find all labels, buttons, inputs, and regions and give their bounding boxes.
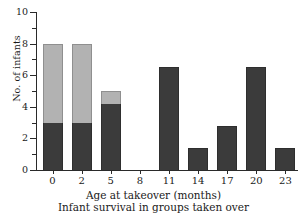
bar-segment-survived-5 bbox=[101, 104, 121, 170]
y-minor-tick-1 bbox=[32, 154, 37, 155]
y-minor-tick-5 bbox=[32, 91, 37, 92]
y-tick-label-4: 4 bbox=[8, 102, 28, 112]
bar-segment-survived-14 bbox=[188, 148, 208, 170]
bar-segment-died-2 bbox=[72, 44, 92, 123]
bar-17 bbox=[217, 126, 237, 170]
bar-11 bbox=[159, 67, 179, 170]
y-tick-label-8: 8 bbox=[8, 39, 28, 49]
plot-area: 0246810 02581114172023 bbox=[36, 12, 298, 170]
x-tick-label-20: 20 bbox=[243, 176, 269, 186]
figure-caption: Infant survival in groups taken over bbox=[0, 201, 307, 213]
x-tick-label-2: 2 bbox=[69, 176, 95, 186]
bar-segment-survived-2 bbox=[72, 123, 92, 170]
bar-segment-survived-23 bbox=[275, 148, 295, 170]
bar-segment-died-5 bbox=[101, 91, 121, 104]
bar-segment-survived-11 bbox=[159, 67, 179, 170]
y-tick-10 bbox=[30, 12, 37, 13]
x-tick-2 bbox=[82, 170, 83, 174]
y-tick-label-10: 10 bbox=[8, 7, 28, 17]
bar-segment-survived-0 bbox=[43, 123, 63, 170]
y-minor-tick-3 bbox=[32, 123, 37, 124]
bar-5 bbox=[101, 91, 121, 170]
bar-segment-survived-20 bbox=[246, 67, 266, 170]
x-tick-0 bbox=[53, 170, 54, 174]
bar-23 bbox=[275, 148, 295, 170]
y-tick-label-0: 0 bbox=[8, 165, 28, 175]
bar-chart-figure: No. of infants 0246810 02581114172023 Ag… bbox=[0, 0, 307, 214]
x-tick-label-14: 14 bbox=[185, 176, 211, 186]
bar-0 bbox=[43, 44, 63, 170]
y-tick-2 bbox=[30, 138, 37, 139]
bar-segment-died-0 bbox=[43, 44, 63, 123]
x-tick-23 bbox=[285, 170, 286, 174]
y-minor-tick-9 bbox=[32, 28, 37, 29]
y-tick-8 bbox=[30, 44, 37, 45]
x-tick-11 bbox=[169, 170, 170, 174]
x-tick-label-5: 5 bbox=[98, 176, 124, 186]
y-tick-6 bbox=[30, 75, 37, 76]
y-tick-4 bbox=[30, 107, 37, 108]
y-tick-label-6: 6 bbox=[8, 70, 28, 80]
bar-14 bbox=[188, 148, 208, 170]
x-tick-20 bbox=[256, 170, 257, 174]
x-axis-line bbox=[36, 170, 298, 171]
x-tick-label-8: 8 bbox=[127, 176, 153, 186]
x-tick-14 bbox=[198, 170, 199, 174]
x-tick-5 bbox=[111, 170, 112, 174]
x-tick-8 bbox=[140, 170, 141, 174]
y-minor-tick-7 bbox=[32, 59, 37, 60]
x-tick-label-23: 23 bbox=[272, 176, 298, 186]
x-tick-label-0: 0 bbox=[40, 176, 66, 186]
bar-2 bbox=[72, 44, 92, 170]
x-axis-title: Age at takeover (months) bbox=[0, 189, 307, 201]
x-tick-label-11: 11 bbox=[156, 176, 182, 186]
bar-segment-survived-17 bbox=[217, 126, 237, 170]
x-tick-17 bbox=[227, 170, 228, 174]
x-tick-label-17: 17 bbox=[214, 176, 240, 186]
y-tick-0 bbox=[30, 170, 37, 171]
y-tick-label-2: 2 bbox=[8, 133, 28, 143]
bar-20 bbox=[246, 67, 266, 170]
